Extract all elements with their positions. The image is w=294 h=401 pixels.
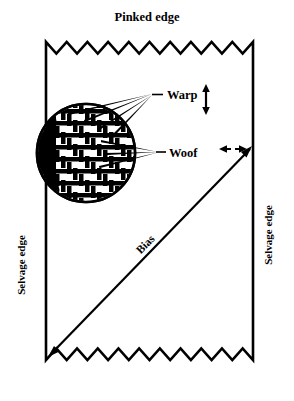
fabric-diagram: Pinked edge Warp Woof Bias Selvage edge …	[0, 0, 294, 401]
selvage-edge-right-label: Selvage edge	[262, 205, 274, 265]
page-title: Pinked edge	[115, 10, 180, 24]
warp-label: Warp	[167, 88, 198, 102]
woof-label: Woof	[169, 146, 198, 160]
selvage-edge-left-label: Selvage edge	[15, 235, 27, 295]
arrow-up-down-icon	[202, 84, 210, 115]
bias-label: Bias	[133, 232, 157, 256]
fabric-diagram-svg: Pinked edge Warp Woof Bias Selvage edge …	[0, 0, 294, 401]
